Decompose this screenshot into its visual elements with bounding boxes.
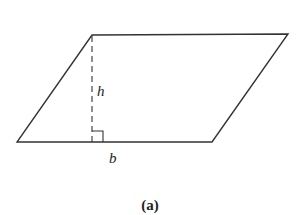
right-angle-marker: [92, 131, 103, 142]
parallelogram-diagram: h b (a): [0, 0, 306, 215]
height-label: h: [97, 83, 105, 99]
parallelogram-outline: [17, 34, 288, 142]
base-label: b: [109, 150, 117, 166]
figure-caption: (a): [141, 197, 159, 214]
